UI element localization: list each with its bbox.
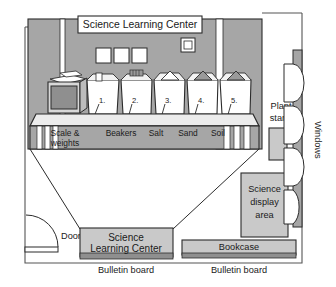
learning-center-rug: Science Learning Center xyxy=(80,228,173,259)
bin-1-number: 1. xyxy=(99,96,105,105)
counter-slat-2 xyxy=(45,126,50,149)
wall-poster-2 xyxy=(114,48,129,63)
bin-2-number: 2. xyxy=(132,96,138,105)
bin-2-label: Beakers xyxy=(106,128,137,138)
wall-switch-icon xyxy=(184,41,192,49)
science-display-area: Science display area xyxy=(241,173,288,237)
floor-plan-canvas: Science Learning Center xyxy=(0,0,336,287)
rug-shadow xyxy=(80,253,173,259)
wall-poster-3 xyxy=(132,48,147,63)
door-swing-arc xyxy=(26,215,58,247)
rug-label-line2: Learning Center xyxy=(90,243,162,254)
bookcase-shadow xyxy=(182,253,296,258)
door-leaf xyxy=(25,247,58,252)
scale-face xyxy=(51,86,77,109)
floor-perspective-lines xyxy=(30,149,259,229)
window-2 xyxy=(284,106,304,144)
window-1 xyxy=(284,64,304,102)
bin-1-label-line1: Scale & xyxy=(51,128,80,138)
bin-2-contents xyxy=(130,70,143,76)
display-area-line1: Science xyxy=(248,184,281,194)
bulletin-board-labels: Bulletin board Bulletin board xyxy=(98,265,267,275)
bin-3-number: 3. xyxy=(165,96,171,105)
bin-1-rim xyxy=(87,74,119,80)
bin-4-number: 4. xyxy=(198,96,204,105)
bin-1-label-line2: weights xyxy=(50,138,79,148)
display-area-line3: area xyxy=(255,210,274,220)
bin-1-contents xyxy=(96,73,102,81)
counter-slat-1 xyxy=(37,126,42,149)
counter-slat-5 xyxy=(234,126,240,149)
scale-side xyxy=(80,78,87,113)
counter-surface xyxy=(30,114,259,126)
bin-4-label: Sand xyxy=(178,128,198,138)
bin-3-label: Salt xyxy=(149,128,164,138)
counter-top xyxy=(30,114,259,126)
bookcase-label: Bookcase xyxy=(219,242,259,252)
bulletin-board-right-label: Bulletin board xyxy=(211,265,267,275)
classroom-floor-plan: Science Learning Center xyxy=(0,0,336,287)
door-label: Door xyxy=(61,231,81,241)
windows-label: Windows xyxy=(313,121,323,159)
banner-label: Science Learning Center xyxy=(83,19,198,30)
science-learning-center-banner: Science Learning Center xyxy=(78,16,202,33)
bin-5-number: 5. xyxy=(231,96,237,105)
door: Door xyxy=(25,215,81,252)
bulletin-board-left-label: Bulletin board xyxy=(98,265,154,275)
bookcase: Bookcase xyxy=(182,240,296,258)
rug-label-line1: Science xyxy=(108,232,144,243)
bin-5-label: Soil xyxy=(211,128,225,138)
windows-wall: Windows xyxy=(284,50,323,227)
wall-poster-1 xyxy=(96,48,111,63)
counter-slat-6 xyxy=(244,126,250,149)
window-3 xyxy=(284,148,304,186)
display-area-line2: display xyxy=(250,197,279,207)
window-4 xyxy=(284,190,299,224)
